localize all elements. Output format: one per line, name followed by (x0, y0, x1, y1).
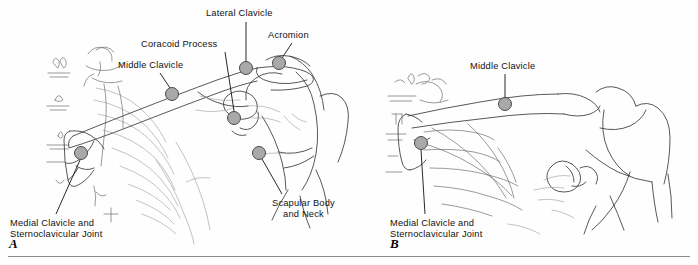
panel-b-annotations (415, 74, 512, 214)
marker-scapular-body[interactable] (253, 147, 266, 160)
marker-middle-clavicle[interactable] (166, 88, 179, 101)
panel-letter-a: A (9, 236, 18, 252)
leader-scapular-body (262, 159, 282, 194)
clavicle-a (69, 67, 314, 149)
soft-tissue-a (196, 96, 306, 154)
soft-tissue-b (508, 176, 574, 235)
label-middle-clavicle-b: Middle Clavicle (470, 61, 535, 72)
label-medial-clavicle-sternoclavicular-joint-b: Medial Clavicle and Sternoclavicular Joi… (390, 218, 482, 240)
humerus-b (584, 87, 672, 234)
thoracic-spine (94, 84, 123, 222)
label-coracoid-process: Coracoid Process (141, 39, 217, 50)
label-middle-clavicle: Middle Clavicle (118, 60, 183, 71)
label-medial-clavicle-sternoclavicular-joint: Medial Clavicle and Sternoclavicular Joi… (10, 218, 102, 240)
leader-medial-clavicle (56, 160, 80, 214)
marker-medial-clavicle[interactable] (75, 147, 88, 160)
anatomical-figure: Lateral Clavicle Acromion Coracoid Proce… (0, 0, 698, 265)
axilla-contour-a (156, 142, 210, 244)
leader-middle-clavicle (160, 73, 170, 88)
panel-b-illustration (386, 73, 672, 234)
marker-medial-clavicle-b[interactable] (415, 137, 428, 150)
leader-medial-clavicle-b (421, 150, 425, 214)
scapula-body-b (418, 124, 522, 216)
label-lateral-clavicle: Lateral Clavicle (206, 8, 273, 19)
spine-segments-b (386, 73, 430, 172)
figure-divider (8, 256, 690, 257)
leader-coracoid-process (225, 52, 234, 111)
panel-letter-b: B (390, 236, 399, 252)
marker-coracoid-process[interactable] (228, 112, 241, 125)
label-scapular-body-and-neck: Scapular Body and Neck (272, 198, 335, 220)
sternum-segments (47, 58, 70, 184)
cervical-spine-b (416, 79, 448, 103)
marker-lateral-clavicle[interactable] (240, 62, 253, 75)
rib-cage (94, 88, 180, 234)
marker-acromion[interactable] (273, 57, 286, 70)
label-acromion: Acromion (268, 30, 309, 41)
marker-middle-clavicle-b[interactable] (499, 98, 512, 111)
figure-svg (0, 0, 698, 265)
